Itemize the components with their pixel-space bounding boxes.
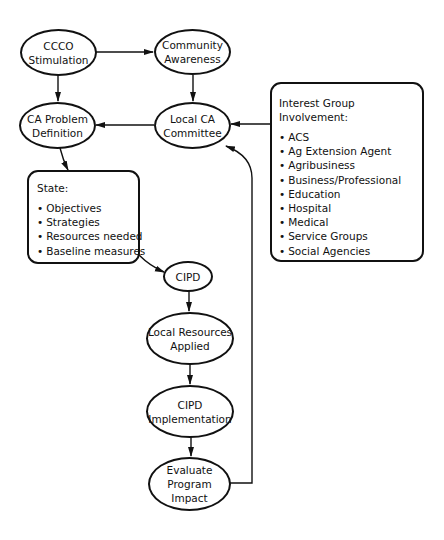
- node-evaluate-program-impact: Evaluate Program Impact: [148, 457, 231, 511]
- node-local-ca-committee: Local CA Committee: [154, 102, 231, 149]
- node-label: Stimulation: [28, 53, 88, 67]
- node-cipd-implementation: CIPD Implementation: [146, 385, 234, 438]
- interest-group-title: Interest Group Involvement:: [279, 96, 422, 124]
- arrow-problem-to-state: [60, 148, 68, 170]
- state-box-title: State:: [37, 181, 68, 195]
- node-local-resources-applied: Local Resources Applied: [146, 312, 234, 365]
- list-item: Baseline measures: [37, 244, 145, 258]
- node-label: Implementation: [148, 412, 231, 426]
- node-label: Community: [162, 38, 223, 52]
- list-item: Service Groups: [279, 229, 401, 243]
- node-label: Local Resources: [148, 325, 232, 339]
- node-label: Evaluate: [167, 463, 213, 477]
- list-item: Medical: [279, 215, 401, 229]
- node-label: Applied: [170, 339, 209, 353]
- node-state-box: State: Objectives Strategies Resources n…: [27, 170, 140, 264]
- list-item: Social Agencies: [279, 244, 401, 258]
- list-item: Hospital: [279, 201, 401, 215]
- node-community-awareness: Community Awareness: [154, 29, 231, 75]
- list-item: Resources needed: [37, 229, 145, 243]
- list-item: Objectives: [37, 201, 145, 215]
- list-item: Education: [279, 187, 401, 201]
- node-label: CIPD: [178, 398, 203, 412]
- node-interest-group-box: Interest Group Involvement: ACS Ag Exten…: [270, 82, 424, 262]
- list-item: Strategies: [37, 215, 145, 229]
- node-label: Local CA: [170, 112, 215, 126]
- list-item: Agribusiness: [279, 158, 401, 172]
- node-ca-problem-definition: CA Problem Definition: [19, 102, 96, 149]
- list-item: Business/Professional: [279, 173, 401, 187]
- node-label: Committee: [163, 126, 221, 140]
- node-cipd: CIPD: [163, 261, 213, 292]
- node-label: Program: [167, 477, 211, 491]
- node-label: CIPD: [176, 270, 201, 284]
- connector-layer: [0, 0, 444, 540]
- node-label: Impact: [171, 491, 207, 505]
- arrow-evaluate-to-committee: [226, 146, 252, 483]
- node-label: CA Problem: [27, 112, 88, 126]
- list-item: Ag Extension Agent: [279, 144, 401, 158]
- node-label: Definition: [32, 126, 83, 140]
- node-label: Awareness: [164, 52, 220, 66]
- node-ccco-stimulation: CCCO Stimulation: [20, 29, 97, 76]
- state-box-list: Objectives Strategies Resources needed B…: [37, 201, 145, 258]
- list-item: ACS: [279, 130, 401, 144]
- node-label: CCCO: [43, 39, 73, 53]
- interest-group-list: ACS Ag Extension Agent Agribusiness Busi…: [279, 130, 401, 258]
